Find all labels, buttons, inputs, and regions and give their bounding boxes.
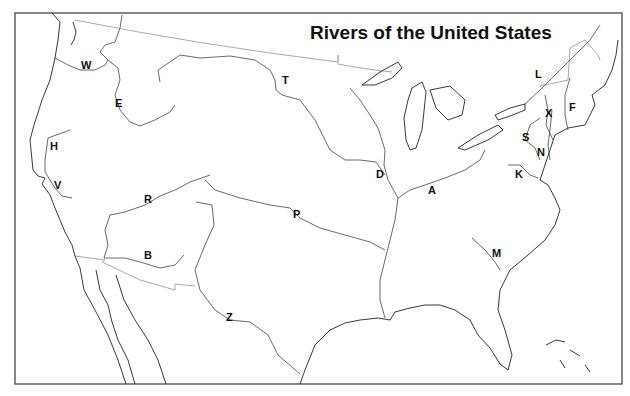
lake-michigan (404, 82, 426, 150)
river-potomac (508, 165, 538, 178)
river-label-b: B (144, 250, 152, 261)
river-label-l: L (535, 69, 542, 80)
river-label-x: X (545, 108, 552, 119)
river-label-p: P (293, 209, 300, 220)
us-rivers-map (0, 0, 630, 396)
river-label-z: Z (226, 312, 233, 323)
river-label-a: A (428, 185, 436, 196)
florida-keys (546, 340, 590, 372)
lake-ontario (495, 104, 525, 120)
river-label-f: F (569, 102, 576, 113)
river-label-h: H (50, 141, 58, 152)
mexico-border (75, 256, 195, 290)
river-rio-grande (195, 202, 300, 374)
mexico-gulf-coast (116, 275, 166, 384)
lake-erie (458, 125, 503, 150)
baja-coast (96, 270, 135, 384)
map-title: Rivers of the United States (310, 22, 552, 44)
river-missouri (158, 55, 385, 175)
river-snake (108, 60, 175, 126)
gulf-coast (300, 40, 618, 384)
river-label-m: M (492, 248, 501, 259)
lake-huron (430, 86, 465, 120)
west-coast (30, 13, 126, 384)
puget-sound (71, 22, 76, 45)
river-label-n: N (537, 147, 545, 158)
river-mississippi (350, 88, 398, 318)
river-label-e: E (115, 98, 122, 109)
map-frame (15, 13, 622, 384)
river-label-d: D (376, 169, 384, 180)
river-colorado (104, 175, 210, 258)
river-label-w: W (81, 60, 91, 71)
river-label-k: K (515, 169, 523, 180)
lake-superior (362, 62, 402, 85)
river-label-v: V (54, 180, 61, 191)
river-ohio (398, 150, 485, 198)
river-label-r: R (144, 194, 152, 205)
river-label-t: T (282, 75, 289, 86)
river-label-s: S (522, 132, 529, 143)
